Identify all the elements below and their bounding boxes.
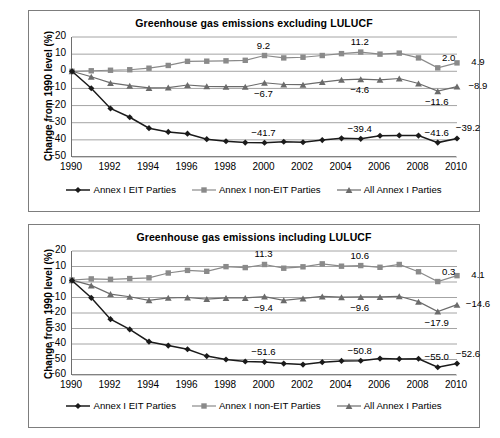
- y-tick-label: −40: [35, 337, 66, 348]
- legend-item-triangle: All Annex I Parties: [337, 400, 442, 411]
- data-label: −14.6: [460, 298, 496, 309]
- y-tick-label: −50: [35, 353, 66, 364]
- x-tick-label: 2010: [436, 161, 476, 172]
- y-tick-label: −20: [35, 99, 66, 110]
- data-label: −50.8: [342, 345, 378, 356]
- x-tick-label: 1990: [51, 379, 91, 390]
- data-label: −39.2: [450, 122, 486, 133]
- triangle-marker-icon: [337, 185, 361, 195]
- legend-label: Annex I non-EIT Parties: [219, 400, 321, 411]
- legend-item-square: Annex I non-EIT Parties: [192, 184, 321, 195]
- x-tick-label: 1996: [167, 161, 207, 172]
- data-label: 11.3: [246, 248, 282, 259]
- data-label: 9.2: [246, 40, 282, 51]
- y-tick-label: 10: [35, 47, 66, 58]
- x-tick-label: 2006: [359, 379, 399, 390]
- x-tick-label: 2008: [398, 161, 438, 172]
- data-label: −52.6: [450, 348, 486, 359]
- chart-panel-including-lulucf: Greenhouse gas emissions including LULUC…: [28, 224, 480, 428]
- x-tick-label: 1998: [205, 379, 245, 390]
- data-label: 11.2: [342, 36, 378, 47]
- x-tick-label: 1992: [90, 161, 130, 172]
- x-tick-label: 2004: [321, 161, 361, 172]
- x-tick-label: 1998: [205, 161, 245, 172]
- data-label: −41.7: [246, 127, 282, 138]
- y-tick-label: 20: [35, 244, 66, 255]
- y-tick-label: −60: [35, 368, 66, 379]
- data-label: 4.9: [460, 56, 496, 67]
- data-label: −17.9: [419, 317, 455, 328]
- triangle-marker-icon: [337, 401, 361, 411]
- y-tick-label: 10: [35, 260, 66, 271]
- y-tick-label: −10: [35, 81, 66, 92]
- legend-item-square: Annex I non-EIT Parties: [192, 400, 321, 411]
- chart-title: Greenhouse gas emissions excluding LULUC…: [29, 17, 479, 29]
- legend-item-diamond: Annex I EIT Parties: [66, 400, 175, 411]
- data-label: −51.6: [246, 346, 282, 357]
- diamond-marker-icon: [66, 401, 90, 411]
- chart-legend: Annex I EIT PartiesAnnex I non-EIT Parti…: [29, 184, 479, 195]
- data-label: −11.6: [419, 96, 455, 107]
- data-label: −39.4: [342, 123, 378, 134]
- y-tick-label: −40: [35, 133, 66, 144]
- y-tick-label: −20: [35, 306, 66, 317]
- diamond-marker-icon: [66, 185, 90, 195]
- x-tick-label: 2008: [398, 379, 438, 390]
- legend-label: Annex I non-EIT Parties: [219, 184, 321, 195]
- legend-label: All Annex I Parties: [364, 184, 442, 195]
- y-tick-label: −30: [35, 322, 66, 333]
- data-label: 10.6: [342, 250, 378, 261]
- data-label: −8.9: [460, 80, 496, 91]
- x-tick-label: 2002: [282, 379, 322, 390]
- x-tick-label: 2010: [436, 379, 476, 390]
- figure-root: Greenhouse gas emissions excluding LULUC…: [0, 0, 500, 438]
- legend-label: Annex I EIT Parties: [93, 400, 175, 411]
- x-tick-label: 2000: [244, 161, 284, 172]
- square-marker-icon: [192, 401, 216, 411]
- y-tick-label: 0: [35, 275, 66, 286]
- x-tick-label: 2006: [359, 161, 399, 172]
- y-tick-label: 20: [35, 30, 66, 41]
- chart-panel-excluding-lulucf: Greenhouse gas emissions excluding LULUC…: [28, 10, 480, 212]
- square-marker-icon: [192, 185, 216, 195]
- y-tick-label: 0: [35, 64, 66, 75]
- x-tick-label: 2004: [321, 379, 361, 390]
- chart-title: Greenhouse gas emissions including LULUC…: [29, 231, 479, 243]
- legend-item-diamond: Annex I EIT Parties: [66, 184, 175, 195]
- x-tick-label: 2000: [244, 379, 284, 390]
- data-label: 4.1: [460, 269, 496, 280]
- x-tick-label: 1996: [167, 379, 207, 390]
- data-label: −9.4: [246, 302, 282, 313]
- y-tick-label: −10: [35, 291, 66, 302]
- x-tick-label: 1990: [51, 161, 91, 172]
- data-label: −9.6: [342, 302, 378, 313]
- x-tick-label: 2002: [282, 161, 322, 172]
- x-tick-label: 1992: [90, 379, 130, 390]
- data-label: −6.7: [246, 88, 282, 99]
- data-label: −4.6: [342, 84, 378, 95]
- legend-item-triangle: All Annex I Parties: [337, 184, 442, 195]
- y-tick-label: −50: [35, 150, 66, 161]
- y-tick-label: −30: [35, 116, 66, 127]
- x-tick-label: 1994: [128, 379, 168, 390]
- chart-legend: Annex I EIT PartiesAnnex I non-EIT Parti…: [29, 400, 479, 411]
- x-tick-label: 1994: [128, 161, 168, 172]
- legend-label: Annex I EIT Parties: [93, 184, 175, 195]
- legend-label: All Annex I Parties: [364, 400, 442, 411]
